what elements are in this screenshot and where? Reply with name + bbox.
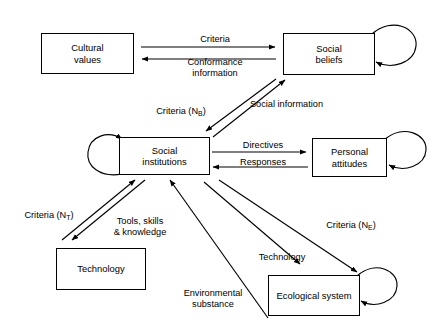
node-label-line1: Social xyxy=(315,43,342,54)
edge-label-technology-flow: Technology xyxy=(249,252,315,263)
diagram-canvas: Cultural values Social beliefs Social in… xyxy=(0,0,439,330)
conformance-line2: information xyxy=(192,68,237,78)
environmental-line2: substance xyxy=(192,299,234,309)
self-loop-ecological-system xyxy=(357,268,397,304)
edge-label-directives: Directives xyxy=(233,140,293,151)
tools-line2: & knowledge xyxy=(114,227,167,237)
self-loop-social-institutions xyxy=(88,135,122,175)
edge-label-criteria: Criteria xyxy=(180,34,250,45)
node-label-line2: attitudes xyxy=(331,158,368,169)
criteria-nt-subscript: T xyxy=(66,214,70,221)
edge-label-conformance-information: Conformance information xyxy=(172,57,258,79)
edge-label-tools-skills-knowledge: Tools, skills & knowledge xyxy=(100,216,180,238)
edge-label-social-information: Social information xyxy=(239,99,334,110)
node-technology[interactable]: Technology xyxy=(56,248,146,290)
tools-line1: Tools, skills xyxy=(117,216,163,226)
edge-label-criteria-nb: Criteria (NB) xyxy=(146,106,216,117)
self-loop-personal-attitudes xyxy=(385,132,426,169)
node-social-beliefs[interactable]: Social beliefs xyxy=(283,33,375,75)
criteria-nb-suffix: ) xyxy=(203,106,206,116)
node-personal-attitudes[interactable]: Personal attitudes xyxy=(312,138,387,177)
self-loop-social-beliefs xyxy=(372,25,416,65)
node-label-line1: Technology xyxy=(77,263,124,274)
node-label-line1: Ecological system xyxy=(276,290,351,301)
criteria-nb-subscript: B xyxy=(198,110,203,117)
node-ecological-system[interactable]: Ecological system xyxy=(268,275,360,316)
criteria-ne-text: Criteria (N xyxy=(326,220,368,230)
edge-label-responses: Responses xyxy=(232,157,294,168)
edge-label-criteria-ne: Criteria (NE) xyxy=(316,220,386,231)
node-label-line1: Personal xyxy=(331,146,368,157)
node-cultural-values[interactable]: Cultural values xyxy=(41,33,134,74)
edge-label-environmental-substance: Environmental substance xyxy=(168,288,258,310)
criteria-nt-text: Criteria (N xyxy=(24,210,66,220)
node-label-line1: Cultural xyxy=(71,42,103,53)
environmental-line1: Environmental xyxy=(184,288,243,298)
conformance-line1: Conformance xyxy=(187,57,242,67)
edge-label-criteria-nt: Criteria (NT) xyxy=(14,210,84,221)
criteria-ne-subscript: E xyxy=(368,224,373,231)
node-social-institutions[interactable]: Social institutions xyxy=(119,137,210,175)
node-label-line2: values xyxy=(71,54,103,65)
criteria-nb-text: Criteria (N xyxy=(156,106,198,116)
criteria-ne-suffix: ) xyxy=(373,220,376,230)
node-label-line2: institutions xyxy=(142,156,186,167)
node-label-line1: Social xyxy=(142,145,186,156)
node-label-line2: beliefs xyxy=(315,54,342,65)
